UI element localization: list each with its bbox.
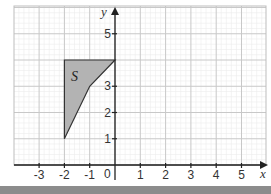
x-tick-label: 1 — [137, 168, 144, 182]
shape-s-label: S — [71, 69, 78, 84]
coordinate-grid-figure: S y x 0 -3-2-112345 1235 — [0, 0, 271, 194]
bottom-bar — [0, 186, 271, 194]
x-tick-label: 5 — [238, 168, 245, 182]
y-tick-label: 5 — [104, 27, 111, 41]
x-tick-label: -2 — [59, 168, 70, 182]
y-tick-label: 2 — [104, 106, 111, 120]
x-axis-name: x — [259, 166, 266, 181]
y-tick-label: 3 — [104, 79, 111, 93]
x-tick-label: -1 — [84, 168, 95, 182]
x-tick-label: 2 — [162, 168, 169, 182]
y-axis-arrow-icon — [111, 7, 119, 15]
x-tick-label: -3 — [34, 168, 45, 182]
x-axis-ticks: -3-2-112345 — [34, 163, 245, 182]
major-grid — [14, 6, 266, 165]
y-tick-label: 1 — [104, 132, 111, 146]
origin-label: 0 — [104, 167, 111, 181]
y-axis-name: y — [99, 4, 107, 19]
x-tick-label: 4 — [213, 168, 220, 182]
x-tick-label: 3 — [188, 168, 195, 182]
